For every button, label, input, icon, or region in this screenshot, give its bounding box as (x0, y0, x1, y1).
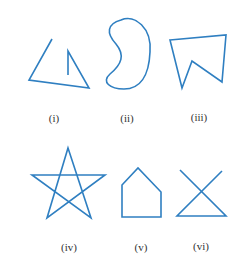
shape-v: (v) (122, 168, 161, 254)
label-ii: (ii) (120, 112, 134, 125)
shape-ii: (ii) (106, 19, 150, 125)
label-vi: (vi) (193, 240, 209, 253)
star-pentagram (32, 148, 105, 218)
label-v: (v) (135, 241, 148, 254)
shape-i: (i) (29, 39, 89, 125)
label-iv: (iv) (61, 241, 77, 254)
bean-closed-curve (106, 19, 150, 89)
label-i: (i) (49, 112, 60, 125)
open-triangle-curve (29, 39, 89, 88)
shape-iii: (iii) (170, 35, 226, 124)
concave-pentagon (170, 35, 226, 88)
shape-iv: (iv) (32, 148, 105, 254)
shape-vi: (vi) (177, 170, 226, 253)
shapes-figure: (i) (ii) (iii) (iv) (v) (vi) (0, 0, 240, 275)
label-iii: (iii) (191, 111, 208, 124)
house-pentagon (122, 168, 161, 217)
crossed-triangle-curve (177, 170, 226, 216)
